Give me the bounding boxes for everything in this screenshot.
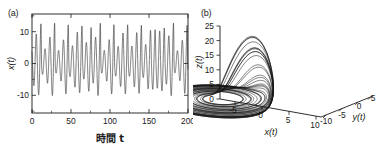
y-tick-label: 5 bbox=[371, 93, 376, 103]
z-tick-label: 20 bbox=[205, 36, 215, 46]
z-tick-label: 15 bbox=[205, 50, 215, 60]
y-tick-label: 0 bbox=[357, 101, 362, 111]
z-axis-title-b: z(t) bbox=[194, 56, 204, 70]
time-series-panel: (a) bbox=[0, 0, 193, 151]
phase-portrait-plot: 0 5 10 15 20 25 -5 0 5 10 x(t) bbox=[193, 0, 385, 151]
x-axis-title-b: x(t) bbox=[264, 127, 278, 137]
y-axis-title-b: y(t) bbox=[352, 112, 366, 122]
x-tick-label: 0 bbox=[30, 116, 35, 126]
y-tick-label: -10 bbox=[17, 90, 29, 100]
y-tick-label: 0 bbox=[24, 58, 29, 68]
time-series-plot: 10 0 -10 0 50 100 150 200 x(t) 時間 t bbox=[0, 0, 193, 151]
x-tick-label: 200 bbox=[181, 116, 193, 126]
x-tick-label: 100 bbox=[103, 116, 117, 126]
x-tick-label: 5 bbox=[286, 115, 291, 125]
figure-container: (a) bbox=[0, 0, 385, 151]
x-tick-label: 10 bbox=[310, 120, 320, 130]
axes-3d bbox=[220, 26, 373, 117]
y-tick-label: 10 bbox=[20, 27, 30, 37]
x-tick-label: 150 bbox=[142, 116, 156, 126]
z-tick-label: 10 bbox=[205, 65, 215, 75]
x-axis-title-a: 時間 t bbox=[96, 132, 124, 144]
y-tick-label: -10 bbox=[320, 116, 332, 126]
z-tick-label: 25 bbox=[205, 21, 215, 31]
y-tick-label: -5 bbox=[338, 110, 346, 120]
y-axis-title-a: x(t) bbox=[6, 57, 16, 71]
phase-portrait-panel: (b) 0 5 10 15 bbox=[193, 0, 385, 151]
x-tick-label: 50 bbox=[66, 116, 76, 126]
time-series-trace bbox=[32, 23, 188, 96]
